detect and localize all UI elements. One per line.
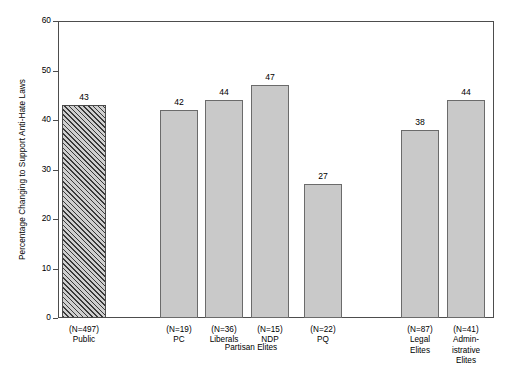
y-tick-label: 40 (0, 114, 58, 126)
y-tick-label: 50 (0, 65, 58, 77)
bar-value-label: 43 (48, 92, 120, 102)
bar-value-label: 27 (290, 171, 356, 181)
bar-value-label: 47 (237, 72, 303, 82)
bar-value-label: 44 (191, 87, 257, 97)
bar (304, 184, 342, 318)
y-tick-label: 20 (0, 213, 58, 225)
bar (205, 100, 243, 318)
y-tick-label: 60 (0, 15, 58, 27)
bar (447, 100, 485, 318)
bar (401, 130, 439, 318)
y-tick-label: 0 (0, 312, 58, 324)
y-tick-label: 10 (0, 263, 58, 275)
group-label-partisan-elites: Partisan Elites (181, 343, 321, 352)
bar (160, 110, 198, 318)
y-tick-mark (53, 318, 58, 319)
y-tick-label: 30 (0, 164, 58, 176)
x-category-label: (N=41) Admin- istrative Elites (430, 325, 502, 366)
bar-chart: Percentage Changing to Support Anti-Hate… (0, 0, 515, 377)
bar-value-label: 44 (433, 87, 499, 97)
bar (251, 85, 289, 318)
bar (62, 105, 106, 318)
bar-value-label: 42 (146, 97, 212, 107)
x-category-label: (N=497) Public (48, 325, 120, 346)
bar-value-label: 38 (387, 117, 453, 127)
